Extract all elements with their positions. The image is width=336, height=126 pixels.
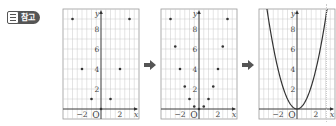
svg-text:O: O — [288, 110, 295, 120]
graph-discrete-points: yxO−222468 — [62, 8, 140, 120]
svg-text:O: O — [190, 110, 197, 120]
svg-text:2: 2 — [216, 110, 221, 119]
svg-text:y: y — [290, 9, 296, 18]
svg-text:2: 2 — [118, 110, 123, 119]
svg-text:2: 2 — [95, 85, 100, 94]
svg-text:−2: −2 — [272, 110, 283, 119]
svg-text:4: 4 — [95, 65, 100, 74]
page-edge-divider — [326, 4, 333, 122]
svg-text:O: O — [92, 110, 99, 120]
right-arrow-icon — [144, 60, 156, 70]
graph-dense-points: yxO−222468 — [160, 8, 238, 120]
svg-text:−2: −2 — [174, 110, 185, 119]
svg-text:−2: −2 — [76, 110, 87, 119]
svg-text:2: 2 — [193, 85, 198, 94]
document-icon — [7, 11, 19, 24]
svg-text:6: 6 — [193, 45, 198, 54]
svg-text:4: 4 — [291, 65, 296, 74]
svg-text:4: 4 — [193, 65, 198, 74]
svg-text:6: 6 — [95, 45, 100, 54]
note-label: 참고 — [16, 11, 40, 24]
svg-text:6: 6 — [291, 45, 296, 54]
svg-text:8: 8 — [193, 25, 198, 34]
note-badge: 참고 — [7, 10, 40, 24]
svg-text:8: 8 — [291, 25, 296, 34]
right-arrow-icon — [242, 60, 254, 70]
svg-text:y: y — [192, 9, 198, 18]
svg-text:2: 2 — [314, 110, 319, 119]
graph-parabola-curve: yxO−222468 — [258, 8, 336, 120]
svg-text:8: 8 — [95, 25, 100, 34]
svg-text:2: 2 — [291, 85, 296, 94]
svg-text:y: y — [94, 9, 100, 18]
